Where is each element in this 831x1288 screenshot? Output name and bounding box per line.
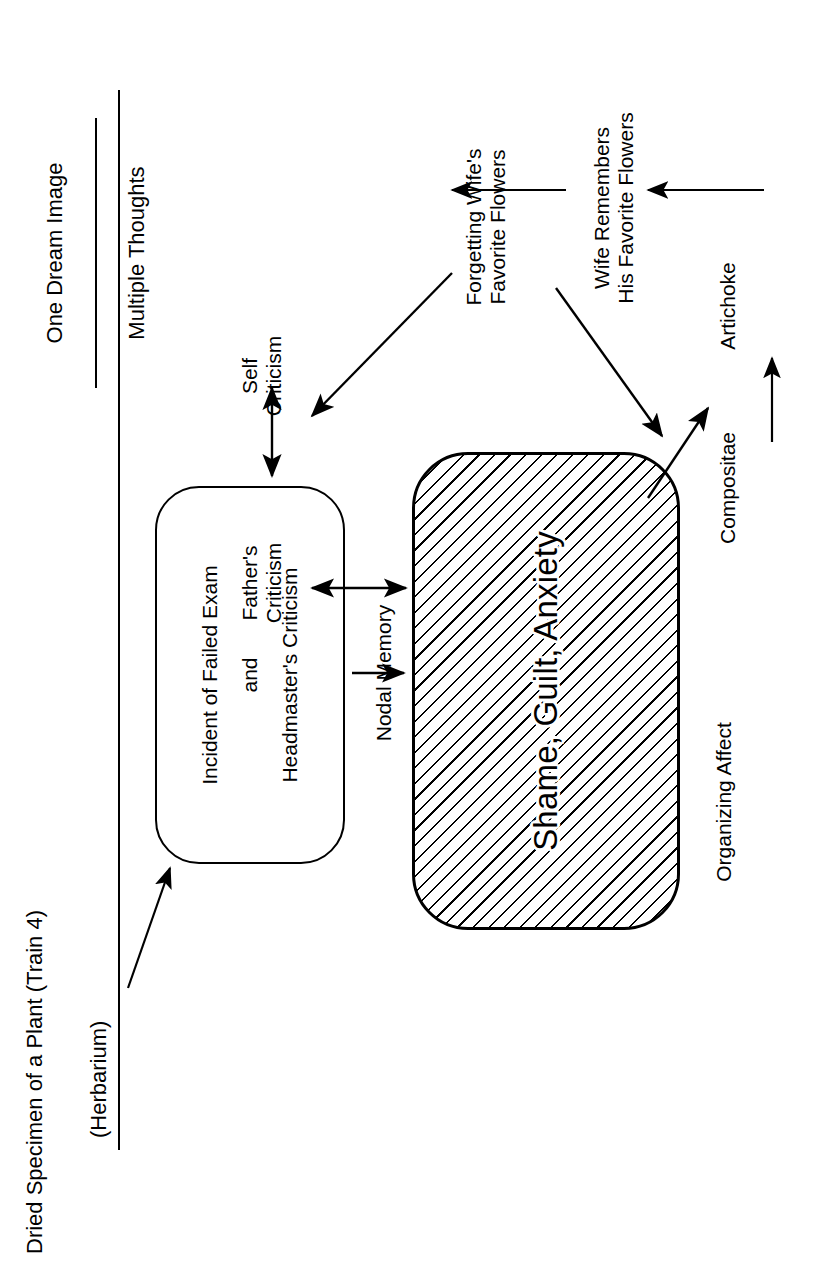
forgetting-wifes-favorite-flowers-label: Forgetting Wife's Favorite Flowers xyxy=(462,82,511,372)
fraction-denominator: Multiple Thoughts xyxy=(124,118,150,388)
arrow-herbarium-to-memory xyxy=(128,868,170,988)
artichoke-label: Artichoke xyxy=(716,216,740,396)
diagram-canvas: Dried Specimen of a Plant (Train 4) (Her… xyxy=(0,0,831,1288)
organizing-affect-caption: Organizing Affect xyxy=(712,652,736,952)
organizing-affect-box xyxy=(412,452,680,930)
horizontal-divider-rule xyxy=(118,90,120,1150)
arrow-forgetting-to-self-criticism xyxy=(312,273,452,416)
compositae-label: Compositae xyxy=(716,388,740,588)
memory-line-1: Incident of Failed Exam xyxy=(190,488,230,862)
fathers-criticism-label: Father's Criticism xyxy=(238,478,287,688)
figure-subtitle-herbarium: (Herbarium) xyxy=(86,1021,112,1138)
fraction-numerator: One Dream Image xyxy=(42,118,70,388)
self-criticism-label: Self Criticism xyxy=(238,276,287,476)
nodal-memory-caption: Nodal Memory xyxy=(372,528,396,818)
figure-title: Dried Specimen of a Plant (Train 4) xyxy=(22,910,48,1254)
dream-thought-fraction: One Dream Image Multiple Thoughts xyxy=(18,118,173,388)
wife-remembers-his-favorite-flowers-label: Wife Remembers His Favorite Flowers xyxy=(590,68,639,348)
fraction-bar xyxy=(95,118,97,388)
